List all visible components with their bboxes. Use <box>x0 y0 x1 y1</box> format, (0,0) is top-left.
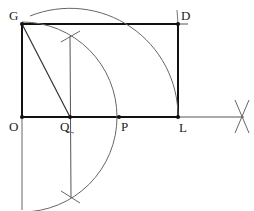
label-g: G <box>9 8 18 23</box>
tick-d-vertical <box>177 10 178 24</box>
label-q: Q <box>60 119 70 134</box>
label-d: D <box>181 8 190 23</box>
point-g <box>20 22 24 26</box>
point-d <box>176 22 180 26</box>
label-p: P <box>121 119 128 134</box>
label-l: L <box>179 120 187 135</box>
geometry-construction-diagram: G D O Q P L <box>0 0 254 211</box>
label-o: O <box>9 119 18 134</box>
point-o <box>20 115 24 119</box>
segment-gq <box>22 24 70 117</box>
point-l <box>176 115 180 119</box>
